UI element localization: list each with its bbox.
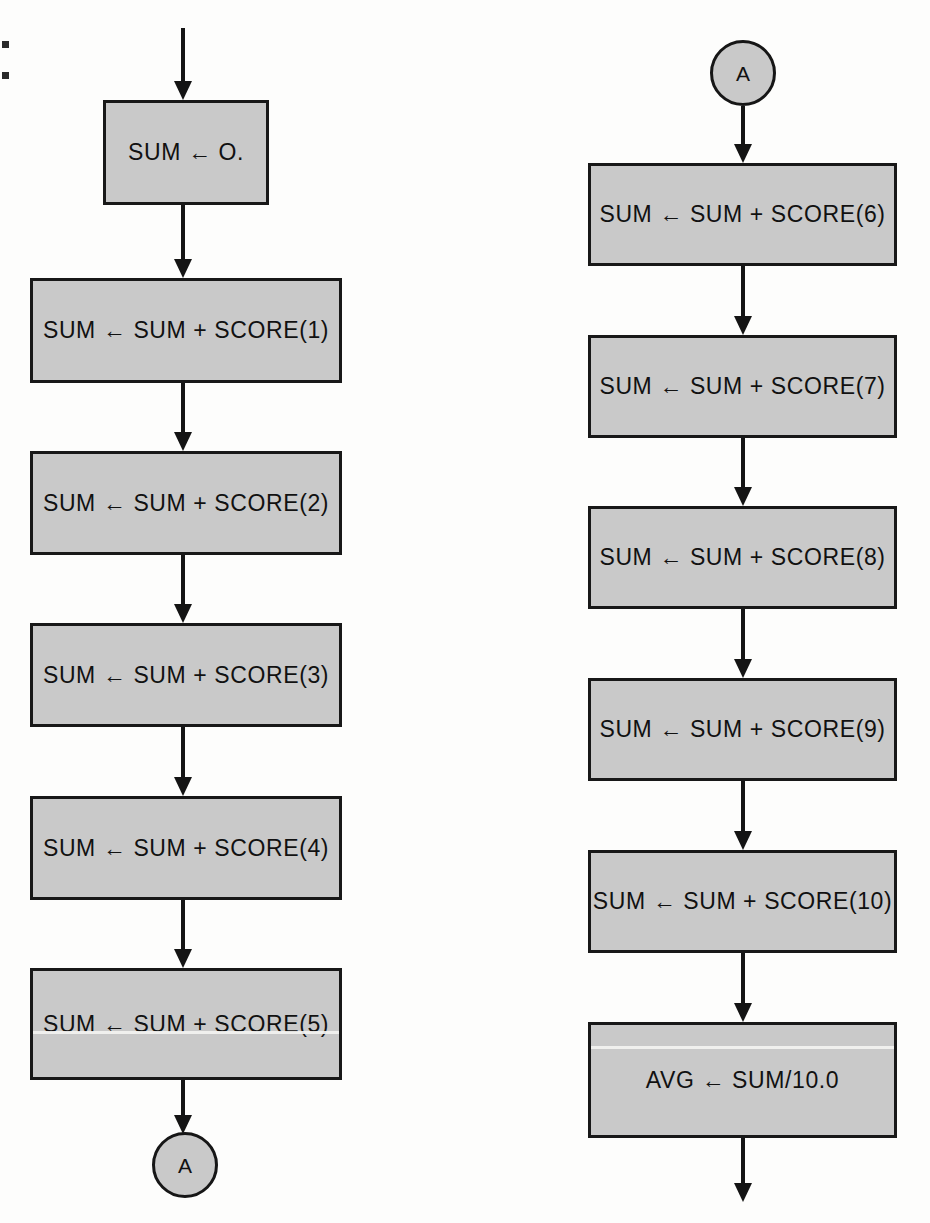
node-score8[interactable]: SUM ← SUM + SCORE(8) [588, 506, 897, 609]
connector-arrow-score7-to-score8 [728, 438, 758, 506]
connector-arrow-score1-to-score2 [168, 383, 198, 451]
node-score4-label: SUM ← SUM + SCORE(4) [43, 837, 329, 860]
connector-arrow-score5-to-connector [168, 1080, 198, 1134]
connector-arrow-score3-to-score4 [168, 727, 198, 796]
node-score7-label: SUM ← SUM + SCORE(7) [599, 375, 885, 398]
node-score7[interactable]: SUM ← SUM + SCORE(7) [588, 335, 897, 438]
node-score6[interactable]: SUM ← SUM + SCORE(6) [588, 163, 897, 266]
node-init[interactable]: SUM ← O. [103, 100, 269, 205]
node-score8-label: SUM ← SUM + SCORE(8) [599, 546, 885, 569]
node-score9-label: SUM ← SUM + SCORE(9) [599, 718, 885, 741]
connector-arrow-score6-to-score7 [728, 266, 758, 335]
node-score3[interactable]: SUM ← SUM + SCORE(3) [30, 623, 342, 727]
connector-a-out-label: A [178, 1155, 192, 1176]
connector-arrow-score4-to-score5 [168, 900, 198, 968]
node-score3-label: SUM ← SUM + SCORE(3) [43, 664, 329, 687]
node-avg[interactable]: AVG ← SUM/10.0 [588, 1022, 897, 1138]
connector-arrow-init-to-score1 [168, 205, 198, 278]
node-score1-label: SUM ← SUM + SCORE(1) [43, 319, 329, 342]
connector-arrow-score2-to-score3 [168, 555, 198, 623]
node-score9[interactable]: SUM ← SUM + SCORE(9) [588, 678, 897, 781]
node-score10-label: SUM ← SUM + SCORE(10) [593, 890, 893, 913]
node-score2-label: SUM ← SUM + SCORE(2) [43, 492, 329, 515]
connector-arrow-score10-to-avg [728, 953, 758, 1022]
scan-band [591, 1046, 894, 1049]
node-avg-label: AVG ← SUM/10.0 [646, 1069, 839, 1092]
node-score5-label: SUM ← SUM + SCORE(5) [43, 1013, 329, 1036]
connector-a-out[interactable]: A [152, 1132, 218, 1198]
connector-a-in-label: A [736, 63, 750, 84]
node-score10[interactable]: SUM ← SUM + SCORE(10) [588, 850, 897, 953]
scan-artifact [2, 72, 9, 79]
connector-a-in[interactable]: A [710, 40, 776, 106]
entry-arrow [168, 28, 198, 100]
scan-artifact [2, 41, 9, 48]
node-score1[interactable]: SUM ← SUM + SCORE(1) [30, 278, 342, 383]
connector-arrow-score8-to-score9 [728, 609, 758, 678]
exit-arrow [728, 1138, 758, 1202]
node-score5[interactable]: SUM ← SUM + SCORE(5) [30, 968, 342, 1080]
node-score2[interactable]: SUM ← SUM + SCORE(2) [30, 451, 342, 555]
node-score6-label: SUM ← SUM + SCORE(6) [599, 203, 885, 226]
flowchart-canvas: SUM ← O. SUM ← SUM + SCORE(1) SUM ← SUM … [0, 0, 930, 1223]
connector-arrow-connector-to-score6 [728, 106, 758, 163]
node-score4[interactable]: SUM ← SUM + SCORE(4) [30, 796, 342, 900]
connector-arrow-score9-to-score10 [728, 781, 758, 850]
node-init-label: SUM ← O. [128, 141, 244, 164]
